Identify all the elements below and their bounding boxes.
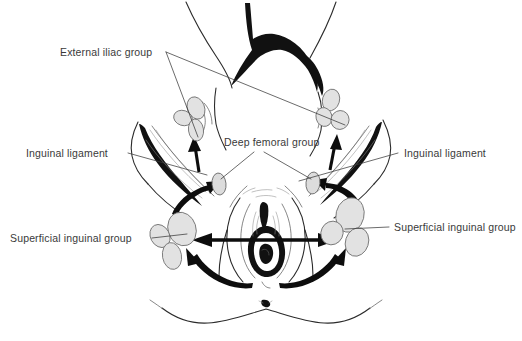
label-superficial-inguinal-group-right: Superficial inguinal group <box>394 221 516 233</box>
label-superficial-inguinal-group-left: Superficial inguinal group <box>10 232 132 244</box>
label-deep-femoral-group: Deep femoral group <box>224 136 320 148</box>
label-inguinal-ligament-right: Inguinal ligament <box>404 147 486 159</box>
label-inguinal-ligament-left: Inguinal ligament <box>26 147 108 159</box>
diagram-canvas: External iliac group Deep femoral group … <box>0 0 522 341</box>
lymphatic-drainage-figure: External iliac group Deep femoral group … <box>0 0 522 341</box>
label-external-iliac-group: External iliac group <box>60 46 152 58</box>
